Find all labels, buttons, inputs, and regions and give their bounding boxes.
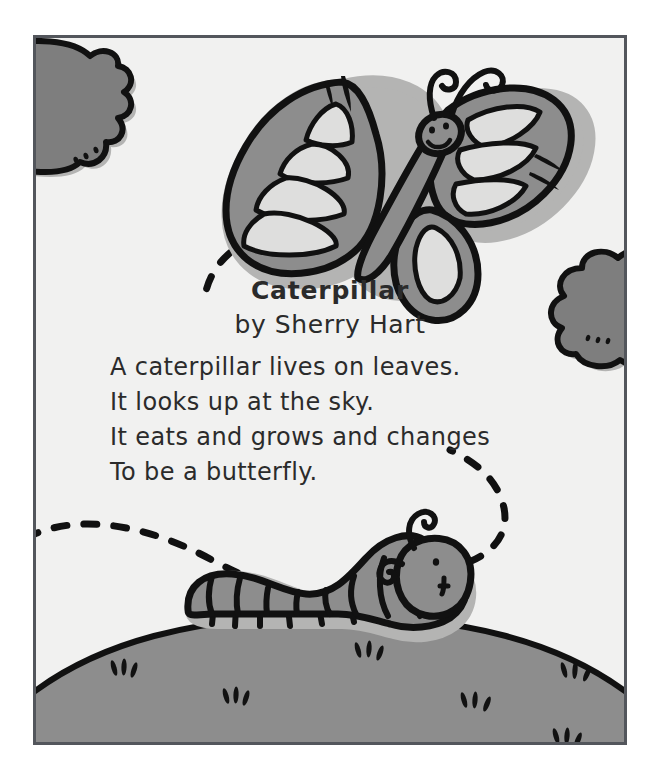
illustration-frame: Caterpillar by Sherry Hart A caterpillar… <box>33 35 627 745</box>
poem-page: Caterpillar by Sherry Hart A caterpillar… <box>0 0 661 780</box>
illustration-canvas <box>36 38 624 742</box>
caterpillar-head <box>396 538 470 616</box>
